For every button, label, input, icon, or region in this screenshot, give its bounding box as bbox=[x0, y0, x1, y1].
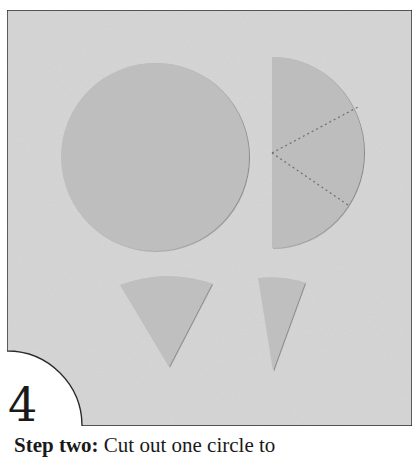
caption-bold: Step two: bbox=[14, 433, 99, 457]
caption: Step two: Cut out one circle to bbox=[14, 433, 275, 457]
full-circle bbox=[61, 63, 249, 251]
caption-text: Cut out one circle to bbox=[99, 433, 276, 457]
step-number: 4 bbox=[8, 382, 37, 428]
